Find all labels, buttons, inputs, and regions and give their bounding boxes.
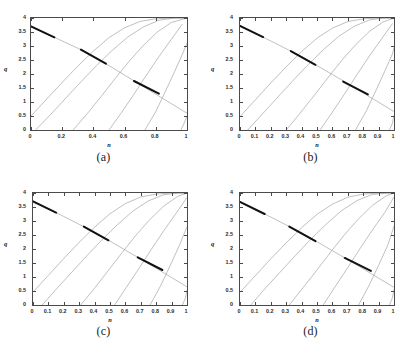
- y-tick-mark: [33, 291, 36, 292]
- y-tick-mark: [184, 291, 187, 292]
- y-tick-mark: [184, 305, 187, 306]
- y-tick-mark: [240, 116, 243, 117]
- y-tick-mark: [31, 18, 34, 19]
- curve-ascending-family-1: [31, 18, 187, 116]
- curve-ascending-family-3: [81, 193, 187, 305]
- y-tick-label: 2: [230, 70, 233, 77]
- y-tick-label: 1: [230, 273, 233, 280]
- y-tick-mark: [391, 263, 394, 264]
- x-tick-mark: [141, 302, 142, 305]
- y-tick-mark: [391, 18, 394, 19]
- y-tick-label: 3.5: [226, 28, 234, 35]
- y-tick-label: 0: [230, 126, 233, 133]
- x-tick-mark: [286, 18, 287, 21]
- y-tick-mark: [33, 277, 36, 278]
- y-tick-label: 2.5: [226, 56, 234, 63]
- x-tick-label: 0.8: [151, 308, 159, 315]
- x-tick-mark: [348, 18, 349, 21]
- y-tick-mark: [391, 88, 394, 89]
- y-tick-label: 1.5: [19, 259, 27, 266]
- curve-ascending-family-4: [115, 197, 187, 305]
- y-tick-label: 0: [23, 301, 26, 308]
- panel-d: 00.511.522.533.54 00.10.20.30.40.50.60.7…: [207, 178, 414, 355]
- y-tick-label: 0: [230, 301, 233, 308]
- x-tick-mark: [379, 193, 380, 196]
- y-tick-mark: [184, 221, 187, 222]
- x-tick-mark: [156, 18, 157, 21]
- x-tick-mark: [125, 193, 126, 196]
- x-tick-mark: [62, 18, 63, 21]
- plot-area-b: [239, 17, 395, 131]
- x-tick-mark: [125, 127, 126, 130]
- y-tick-mark: [391, 207, 394, 208]
- x-tick-mark: [332, 302, 333, 305]
- y-tick-label: 4: [230, 14, 233, 21]
- y-tick-label: 4: [23, 14, 26, 21]
- y-tick-mark: [31, 116, 34, 117]
- y-tick-mark: [33, 305, 36, 306]
- y-tick-mark: [240, 46, 243, 47]
- x-tick-mark: [363, 302, 364, 305]
- plot-area-c: [32, 192, 188, 306]
- x-tick-mark: [79, 193, 80, 196]
- y-tick-mark: [240, 263, 243, 264]
- x-tick-label: 1: [185, 133, 188, 140]
- y-tick-mark: [240, 32, 243, 33]
- x-tick-mark: [317, 302, 318, 305]
- curve-highlight-segment-2: [84, 227, 109, 241]
- y-tick-mark: [184, 207, 187, 208]
- y-tick-label: 3.5: [226, 203, 234, 210]
- x-tick-mark: [332, 193, 333, 196]
- y-tick-label: 1.5: [226, 84, 234, 91]
- y-tick-mark: [391, 130, 394, 131]
- x-tick-label: 0.7: [343, 133, 351, 140]
- x-tick-label: 0.2: [57, 133, 65, 140]
- curve-ascending-family-1: [240, 193, 394, 292]
- x-tick-label: 0.4: [89, 133, 97, 140]
- x-tick-label: 0: [31, 308, 34, 315]
- x-tick-mark: [255, 18, 256, 21]
- y-tick-mark: [391, 60, 394, 61]
- y-tick-mark: [184, 235, 187, 236]
- y-tick-mark: [240, 18, 243, 19]
- curve-ascending-family-3: [73, 18, 187, 130]
- x-tick-mark: [172, 193, 173, 196]
- x-tick-mark: [93, 18, 94, 21]
- x-tick-label: 0: [29, 133, 32, 140]
- x-tick-mark: [79, 302, 80, 305]
- panel-a: 00.511.522.533.54 00.20.40.60.81 q n (a): [0, 0, 207, 178]
- x-tick-mark: [332, 18, 333, 21]
- y-tick-label: 1: [23, 273, 26, 280]
- y-tick-mark: [33, 193, 36, 194]
- y-tick-label: 3: [230, 42, 233, 49]
- x-tick-mark: [379, 302, 380, 305]
- x-tick-label: 0: [238, 308, 241, 315]
- y-tick-label: 4: [230, 189, 233, 196]
- y-axis-title-a: q: [4, 65, 7, 72]
- x-tick-label: 1: [392, 308, 395, 315]
- y-tick-label: 1: [230, 98, 233, 105]
- x-tick-label: 0.1: [251, 133, 259, 140]
- x-tick-label: 0.2: [59, 308, 67, 315]
- x-tick-label: 0.6: [121, 308, 129, 315]
- x-tick-label: 0.3: [74, 308, 82, 315]
- curve-ascending-family-3: [289, 193, 394, 305]
- x-tick-label: 0.2: [266, 308, 274, 315]
- curve-ascending-family-4: [320, 24, 392, 130]
- x-tick-label: 0.5: [312, 308, 320, 315]
- curve-highlight-segment-2: [289, 227, 315, 242]
- x-tick-mark: [255, 193, 256, 196]
- y-tick-mark: [391, 249, 394, 250]
- y-tick-label: 2.5: [226, 231, 234, 238]
- x-tick-mark: [271, 193, 272, 196]
- y-tick-mark: [391, 116, 394, 117]
- y-tick-mark: [31, 102, 34, 103]
- curve-highlight-segment-1: [31, 26, 54, 37]
- x-tick-mark: [286, 302, 287, 305]
- y-tick-label: 2: [23, 245, 26, 252]
- x-tick-label: 0.6: [120, 133, 128, 140]
- y-tick-label: 1.5: [226, 259, 234, 266]
- curve-ascending-family-5: [145, 43, 187, 130]
- y-tick-mark: [391, 46, 394, 47]
- y-tick-mark: [391, 305, 394, 306]
